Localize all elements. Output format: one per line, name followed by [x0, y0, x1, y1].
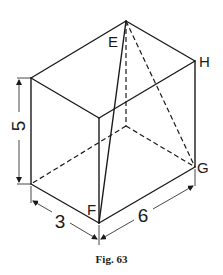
height-label: 5 [8, 121, 29, 132]
vertex-label-e: E [108, 33, 118, 50]
figure-caption: Fig. 63 [0, 253, 223, 265]
visible-edges [31, 21, 195, 223]
box-diagram-figure: 5 3 6 E H G F Fig. 63 [0, 0, 223, 275]
vertex-label-g: G [197, 159, 209, 176]
vertex-label-h: H [199, 53, 210, 70]
width-label: 6 [138, 205, 149, 226]
box-diagram-svg: 5 3 6 E H G F [0, 0, 223, 275]
width-dimension: 6 [101, 169, 195, 239]
vertex-label-f: F [87, 201, 96, 218]
depth-label: 3 [55, 211, 66, 232]
height-dimension: 5 [8, 78, 31, 184]
